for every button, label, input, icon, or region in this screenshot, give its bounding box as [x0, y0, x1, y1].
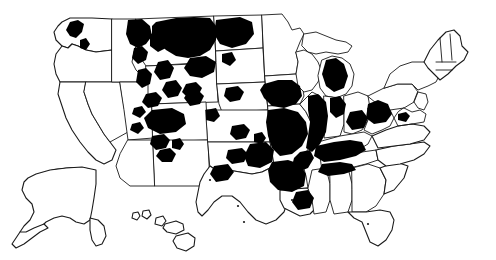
alaska-panhandle	[90, 218, 106, 246]
hawaii-island-kauai	[132, 212, 140, 220]
state-south-dakota	[216, 48, 265, 84]
alaska-outline	[20, 167, 96, 236]
locality-dot-florida	[367, 223, 369, 225]
hawaii-island-niihau	[142, 210, 151, 219]
hawaii-island-molokai-maui	[163, 221, 184, 234]
shaded-patch-tennessee-a	[318, 162, 356, 176]
state-wisconsin	[296, 50, 322, 92]
locality-dot-texas-central	[237, 205, 239, 207]
state-michigan-upper	[302, 32, 352, 54]
hawaii-island-big-island	[173, 233, 195, 251]
us-distribution-map	[0, 0, 496, 260]
hawaii-inset	[132, 210, 195, 251]
state-arizona	[116, 140, 155, 186]
state-florida	[348, 210, 394, 246]
locality-dot-gulf	[291, 199, 293, 201]
map-figure	[0, 0, 496, 260]
state-georgia	[352, 164, 386, 212]
state-nebraska	[217, 82, 268, 112]
locality-dot-texas-west	[209, 179, 211, 181]
alaska-inset	[12, 167, 106, 248]
locality-dot-texas-south	[243, 221, 245, 223]
shaded-patch-virginia-dot	[398, 112, 410, 122]
state-outlines-layer	[54, 14, 468, 246]
